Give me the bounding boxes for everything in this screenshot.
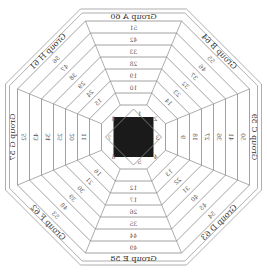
segment-divider — [166, 150, 178, 155]
segment-value: 32 — [181, 79, 191, 89]
segment-divider — [162, 57, 167, 69]
group-label-e: Group E 58 — [110, 254, 156, 263]
segment-divider — [18, 180, 30, 185]
segment-value: 12 — [130, 184, 138, 191]
segment-divider — [42, 170, 54, 175]
segment-value: 48 — [59, 201, 69, 211]
octagon-svg: 12345678Group A 60514233281910Group B 64… — [0, 0, 267, 274]
segment-value: 41 — [228, 133, 235, 141]
segment-value: 25 — [56, 133, 63, 141]
segment-value: 22 — [172, 176, 182, 186]
segment-value: 14 — [164, 96, 174, 106]
segment-value: 16 — [93, 167, 103, 177]
segment-divider — [157, 69, 162, 81]
segment-divider — [147, 93, 152, 105]
segment-divider — [115, 169, 120, 181]
segment-value: 21 — [84, 176, 94, 186]
segment-divider — [178, 114, 190, 119]
segment-divider — [18, 89, 30, 94]
segment-value: 15 — [93, 96, 103, 106]
segment-value: 40 — [189, 193, 199, 203]
octagon-diagram: 12345678Group A 60514233281910Group B 64… — [0, 0, 267, 274]
center-label: 6 — [111, 153, 115, 160]
segment-divider — [162, 205, 167, 217]
segment-divider — [177, 241, 182, 253]
segment-value: 33 — [130, 48, 138, 55]
segment-divider — [90, 150, 102, 155]
segment-value: 56 — [50, 54, 60, 64]
segment-value: 24 — [84, 88, 94, 98]
segment-divider — [85, 21, 90, 33]
segment-divider — [202, 165, 214, 170]
segment-value: 20 — [68, 133, 75, 141]
segment-divider — [178, 155, 190, 160]
center-label: 2 — [153, 115, 157, 122]
segment-value: 38 — [67, 71, 77, 81]
segment-value: 50 — [240, 133, 247, 141]
segment-value: 44 — [130, 232, 138, 239]
segment-divider — [172, 229, 177, 241]
segment-value: 37 — [189, 71, 199, 81]
segment-value: 34 — [44, 133, 51, 141]
segment-value: 46 — [197, 62, 207, 72]
segment-divider — [90, 33, 95, 45]
segment-divider — [167, 45, 172, 57]
segment-value: 23 — [172, 88, 182, 98]
group-label-c: Group C 59 — [250, 114, 259, 161]
segment-divider — [167, 217, 172, 229]
segment-value: 43 — [32, 133, 39, 141]
center-label: 3 — [155, 134, 159, 141]
segment-divider — [238, 180, 250, 185]
segment-divider — [177, 21, 182, 33]
segment-value: 35 — [130, 220, 138, 227]
segment-divider — [152, 181, 157, 193]
segment-divider — [172, 33, 177, 45]
segment-divider — [85, 241, 90, 253]
segment-value: 36 — [216, 133, 223, 141]
segment-value: 39 — [67, 193, 77, 203]
segment-divider — [66, 109, 78, 114]
segment-divider — [157, 193, 162, 205]
segment-divider — [100, 57, 105, 69]
segment-divider — [110, 81, 115, 93]
segment-value: 49 — [130, 244, 138, 251]
segment-value: 55 — [206, 54, 216, 64]
segment-divider — [95, 217, 100, 229]
segment-divider — [226, 175, 238, 180]
segment-value: 19 — [130, 72, 138, 79]
segment-divider — [66, 160, 78, 165]
segment-value: 29 — [76, 79, 86, 89]
segment-value: 27 — [204, 133, 211, 141]
segment-value: 45 — [197, 201, 207, 211]
segment-divider — [190, 109, 202, 114]
center-label: 1 — [138, 110, 142, 117]
group-label-a: Group A 60 — [110, 12, 156, 21]
segment-divider — [110, 181, 115, 193]
segment-divider — [202, 104, 214, 109]
segment-divider — [226, 94, 238, 99]
segment-value: 30 — [76, 184, 86, 194]
center-label: 8 — [111, 115, 115, 122]
center-label: 4 — [153, 153, 157, 160]
segment-value: 47 — [59, 63, 69, 73]
segment-divider — [100, 205, 105, 217]
segment-value: 26 — [130, 208, 138, 215]
group-label-f: Group F 62 — [28, 203, 67, 242]
segment-divider — [54, 165, 66, 170]
segment-divider — [30, 175, 42, 180]
segment-value: 53 — [50, 209, 60, 219]
segment-divider — [78, 114, 90, 119]
segment-divider — [42, 99, 54, 104]
segment-value: 28 — [130, 60, 138, 67]
segment-divider — [147, 169, 152, 181]
segment-divider — [78, 155, 90, 160]
segment-divider — [95, 45, 100, 57]
segment-divider — [90, 119, 102, 124]
segment-value: 18 — [192, 133, 199, 141]
center-label: 7 — [107, 134, 111, 141]
segment-divider — [90, 229, 95, 241]
segment-divider — [54, 104, 66, 109]
segment-value: 10 — [130, 84, 138, 91]
segment-value: 42 — [130, 36, 138, 43]
segment-value: 51 — [130, 24, 138, 31]
